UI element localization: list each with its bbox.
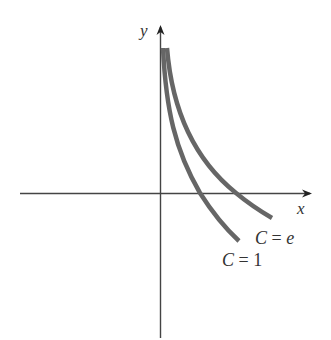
label-c-e-val: e xyxy=(286,228,294,248)
label-c-e: C = e xyxy=(255,228,294,248)
label-c-1-val: 1 xyxy=(253,250,262,270)
y-axis-label: y xyxy=(138,21,148,40)
x-axis-label: x xyxy=(296,199,305,218)
curve-c-1 xyxy=(163,48,239,241)
label-c-1-eq: = xyxy=(234,250,253,270)
label-c-e-eq: = xyxy=(267,228,286,248)
diagram-canvas: y x C = e C = 1 xyxy=(0,0,331,340)
curve-c-e xyxy=(167,48,272,218)
label-c-1: C = 1 xyxy=(222,250,262,270)
